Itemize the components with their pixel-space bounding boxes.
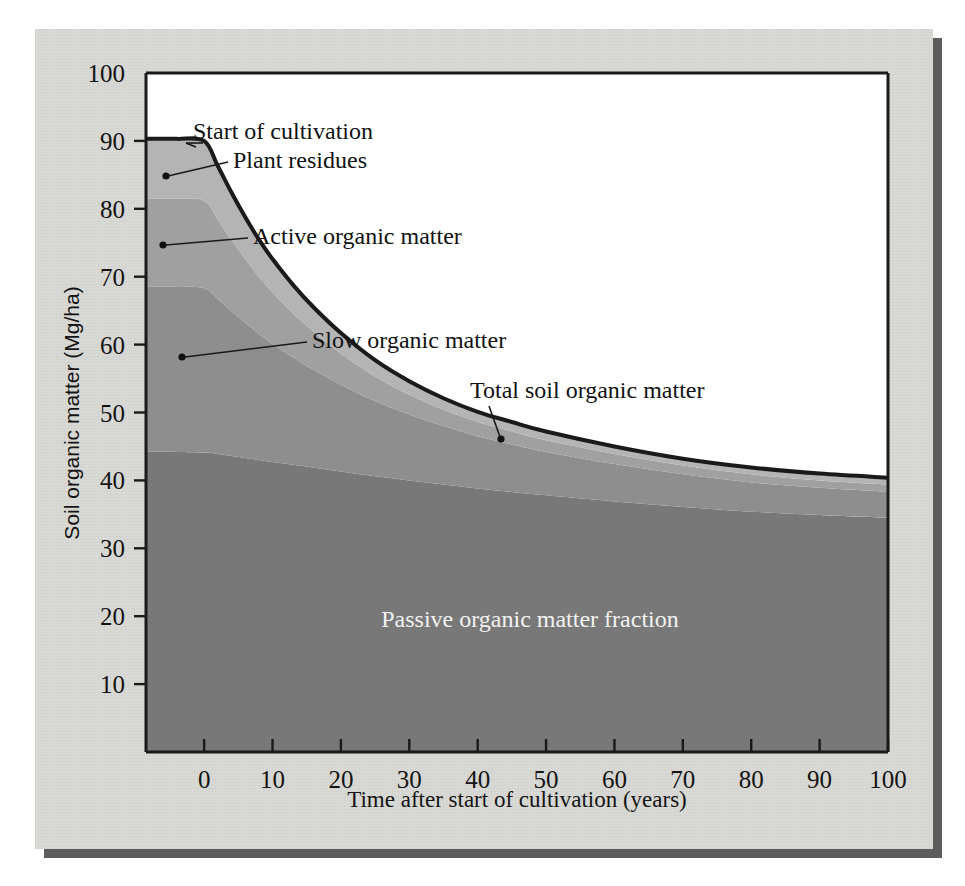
y-axis-title-text: Soil organic matter (Mg/ha) (60, 286, 83, 539)
annotation-plant-residues-dot (162, 172, 169, 179)
x-axis-title-text: Time after start of cultivation (years) (347, 787, 687, 812)
x-tick-label: 80 (739, 766, 764, 793)
annotation-active-organic-matter-label: Active organic matter (253, 223, 462, 249)
annotation-slow-organic-matter-label: Slow organic matter (312, 327, 506, 353)
chart-canvas: 102030405060708090100 010203040506070809… (0, 0, 965, 886)
y-tick-label: 60 (100, 332, 125, 359)
y-tick-label: 90 (100, 128, 125, 155)
annotation-start-of-cultivation: Start of cultivation (186, 118, 373, 147)
y-tick-label: 10 (100, 671, 125, 698)
y-axis-title: Soil organic matter (Mg/ha) (60, 286, 83, 539)
annotation-total-soil-organic-matter-dot (497, 435, 504, 442)
y-tick-label: 20 (100, 603, 125, 630)
annotation-plant-residues-label: Plant residues (233, 147, 367, 173)
y-tick-label: 70 (100, 264, 125, 291)
x-tick-label: 10 (260, 766, 285, 793)
x-tick-label: 90 (807, 766, 832, 793)
y-tick-label: 80 (100, 196, 125, 223)
x-tick-label: 100 (869, 766, 907, 793)
x-tick-label: 0 (198, 766, 211, 793)
annotation-slow-organic-matter-dot (178, 353, 185, 360)
annotation-active-organic-matter-dot (159, 241, 166, 248)
annotation-passive-organic-matter-label: Passive organic matter fraction (381, 606, 678, 632)
y-tick-label: 30 (100, 535, 125, 562)
y-axis-ticks: 102030405060708090100 (88, 60, 147, 698)
y-tick-label: 50 (100, 400, 125, 427)
page-root: 102030405060708090100 010203040506070809… (0, 0, 965, 886)
y-tick-label: 40 (100, 467, 125, 494)
y-tick-label: 100 (88, 60, 126, 87)
soil-organic-matter-figure: 102030405060708090100 010203040506070809… (0, 0, 965, 886)
annotation-total-soil-organic-matter-label: Total soil organic matter (470, 377, 704, 403)
annotation-start-of-cultivation-label: Start of cultivation (193, 118, 373, 144)
